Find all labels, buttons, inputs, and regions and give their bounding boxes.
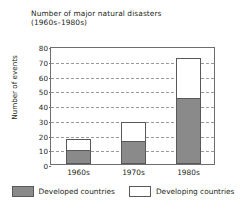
legend-swatch-developing <box>129 186 151 197</box>
y-axis-tick-label: 10 <box>39 147 48 156</box>
legend-label: Developing countries <box>156 187 235 196</box>
x-axis-tick-label-1980s: 1980s <box>164 168 214 177</box>
chart-figure: Number of major natural disasters (1960s… <box>0 0 246 209</box>
y-axis-tickmark <box>49 92 51 93</box>
bar-segment-1980s-developing <box>176 58 201 99</box>
bar-1960s <box>66 140 91 164</box>
y-axis-title: Number of events <box>10 50 19 126</box>
y-axis-tickmark <box>49 122 51 123</box>
x-axis-tick-label-1960s: 1960s <box>54 168 104 177</box>
y-axis-tickmark <box>49 107 51 108</box>
y-axis-tick-label: 30 <box>39 117 48 126</box>
bar-segment-1970s-developing <box>121 122 146 142</box>
y-axis-tick-label: 80 <box>39 44 48 53</box>
y-axis-tickmark <box>49 166 51 167</box>
y-axis-tickmark <box>49 137 51 138</box>
chart-title-main: Number of major natural disasters <box>31 9 162 18</box>
bar-segment-1980s-developed <box>176 98 201 164</box>
y-axis-tickmark <box>49 48 51 49</box>
y-axis-tick-label: 0 <box>43 162 48 171</box>
bar-segment-1960s-developed <box>66 150 91 164</box>
y-axis-tick-label: 40 <box>39 103 48 112</box>
legend-swatch-developed <box>12 186 34 197</box>
plot-area: 010203040506070801960s1970s1980s <box>50 47 215 165</box>
y-axis-tick-label: 20 <box>39 132 48 141</box>
bar-1970s <box>121 123 146 164</box>
chart-legend: Developed countriesDeveloping countries <box>0 186 246 197</box>
legend-item: Developed countries <box>12 186 115 197</box>
y-axis-tick-label: 70 <box>39 58 48 67</box>
bar-segment-1960s-developing <box>66 139 91 150</box>
y-axis-tickmark <box>49 63 51 64</box>
y-axis-tick-label: 50 <box>39 88 48 97</box>
legend-item: Developing countries <box>129 186 235 197</box>
chart-subtitle: (1960s–1980s) <box>31 18 231 27</box>
x-axis-tick-label-1970s: 1970s <box>109 168 159 177</box>
bar-segment-1970s-developed <box>121 141 146 164</box>
legend-label: Developed countries <box>39 187 115 196</box>
chart-title: Number of major natural disasters (1960s… <box>31 9 231 28</box>
y-axis-tickmark <box>49 151 51 152</box>
y-axis-tickmark <box>49 78 51 79</box>
y-axis-tick-label: 60 <box>39 73 48 82</box>
bar-1980s <box>176 59 201 164</box>
